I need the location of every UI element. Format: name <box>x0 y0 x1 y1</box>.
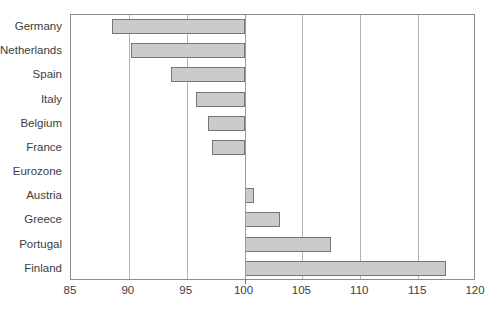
bar-greece <box>245 212 281 227</box>
x-tick-label-115: 115 <box>408 284 426 296</box>
x-tick-label-85: 85 <box>64 284 77 296</box>
bar-row <box>71 257 474 281</box>
bar-rows <box>71 15 474 279</box>
bar-row <box>71 88 474 112</box>
y-axis-label-austria: Austria <box>26 183 62 207</box>
x-tick-label-100: 100 <box>234 284 253 296</box>
bar-finland <box>245 261 446 276</box>
bar-row <box>71 233 474 257</box>
x-tick-label-105: 105 <box>292 284 311 296</box>
y-axis-label-netherlands: Netherlands <box>0 38 62 62</box>
y-axis-category-labels: GermanyNetherlandsSpainItalyBelgiumFranc… <box>0 14 66 280</box>
bar-portugal <box>245 237 332 252</box>
bar-row <box>71 184 474 208</box>
bar-spain <box>171 67 245 82</box>
y-axis-label-belgium: Belgium <box>20 111 62 135</box>
x-tick-label-90: 90 <box>121 284 134 296</box>
bar-row <box>71 39 474 63</box>
bar-austria <box>245 188 254 203</box>
baseline-tick <box>245 279 246 284</box>
bar-france <box>212 140 244 155</box>
y-axis-label-greece: Greece <box>24 207 62 231</box>
y-axis-label-finland: Finland <box>24 256 62 280</box>
bar-chart: GermanyNetherlandsSpainItalyBelgiumFranc… <box>0 0 498 315</box>
x-tick-label-120: 120 <box>465 284 484 296</box>
bar-belgium <box>208 116 245 131</box>
bar-germany <box>112 19 245 34</box>
x-tick-label-95: 95 <box>179 284 192 296</box>
bar-italy <box>196 92 245 107</box>
y-axis-label-spain: Spain <box>33 62 62 86</box>
bar-netherlands <box>131 43 244 58</box>
baseline-100-axis <box>245 15 246 279</box>
bar-row <box>71 63 474 87</box>
bar-row <box>71 208 474 232</box>
plot-area <box>70 14 475 280</box>
y-axis-label-italy: Italy <box>41 87 62 111</box>
bar-row <box>71 136 474 160</box>
bar-row <box>71 15 474 39</box>
bar-row <box>71 112 474 136</box>
bar-row <box>71 160 474 184</box>
x-axis-tick-labels: 859095100105110115120 <box>70 284 475 304</box>
x-tick-label-110: 110 <box>350 284 368 296</box>
y-axis-label-portugal: Portugal <box>19 232 62 256</box>
y-axis-label-france: France <box>26 135 62 159</box>
y-axis-label-eurozone: Eurozone <box>13 159 62 183</box>
y-axis-label-germany: Germany <box>15 14 62 38</box>
